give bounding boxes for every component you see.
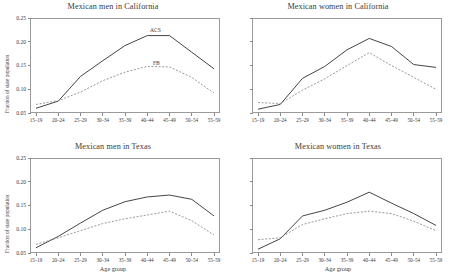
series-line-acs xyxy=(258,192,436,249)
figure-root: Mexican men in California0.050.100.150.2… xyxy=(0,0,450,278)
series-line-fb xyxy=(258,211,436,240)
panel-mexican-women-in-texas: Mexican women in Texas15–1920–2425–2930–… xyxy=(0,0,450,278)
series-layer-mexican-women-in-texas xyxy=(0,0,450,278)
